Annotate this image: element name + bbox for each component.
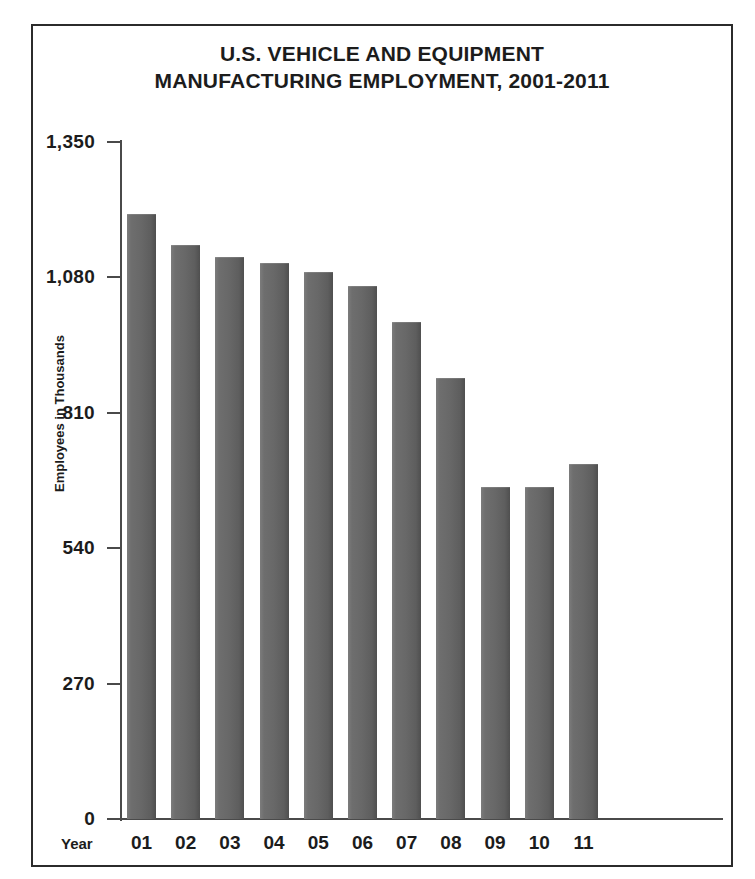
y-axis-tick: [107, 141, 120, 143]
bar: [215, 257, 244, 819]
y-axis-tick: [107, 412, 120, 414]
y-axis-tick-label: 270: [62, 673, 95, 695]
chart-title-line-2: MANUFACTURING EMPLOYMENT, 2001-2011: [33, 67, 731, 94]
bar: [127, 214, 156, 819]
y-axis-tick-label: 1,350: [46, 131, 95, 153]
x-axis-tick-label: 08: [431, 832, 471, 854]
chart-title-line-1: U.S. VEHICLE AND EQUIPMENT: [33, 40, 731, 67]
y-axis-tick: [107, 276, 120, 278]
y-axis-tick: [107, 818, 120, 820]
bar: [171, 245, 200, 819]
y-axis-tick: [107, 547, 120, 549]
x-axis-tick-label: 07: [387, 832, 427, 854]
x-axis-tick-label: 09: [475, 832, 515, 854]
x-axis-tick-label: 06: [343, 832, 383, 854]
y-axis-tick-label: 1,080: [46, 266, 95, 288]
y-axis-tick-label: 810: [62, 402, 95, 424]
y-axis-tick: [107, 683, 120, 685]
plot-area: [120, 142, 723, 819]
x-axis-tick-label: 02: [166, 832, 206, 854]
x-axis-tick-label: 11: [564, 832, 604, 854]
chart-title: U.S. VEHICLE AND EQUIPMENT MANUFACTURING…: [33, 40, 731, 95]
bar: [392, 322, 421, 819]
x-axis-label-area: Year 0102030405060708091011: [33, 826, 731, 866]
bar: [481, 487, 510, 819]
x-axis-tick-label: 10: [519, 832, 559, 854]
x-axis-title: Year: [61, 835, 93, 852]
bar: [348, 286, 377, 819]
bar: [436, 378, 465, 819]
x-axis-tick-label: 05: [298, 832, 338, 854]
bar: [260, 263, 289, 819]
x-axis-tick-label: 04: [254, 832, 294, 854]
bar: [525, 487, 554, 819]
bar: [304, 272, 333, 819]
chart-figure: U.S. VEHICLE AND EQUIPMENT MANUFACTURING…: [31, 24, 733, 867]
x-axis-tick-label: 03: [210, 832, 250, 854]
bar: [569, 464, 598, 819]
x-axis-tick-label: 01: [122, 832, 162, 854]
y-axis-tick-label: 540: [62, 537, 95, 559]
